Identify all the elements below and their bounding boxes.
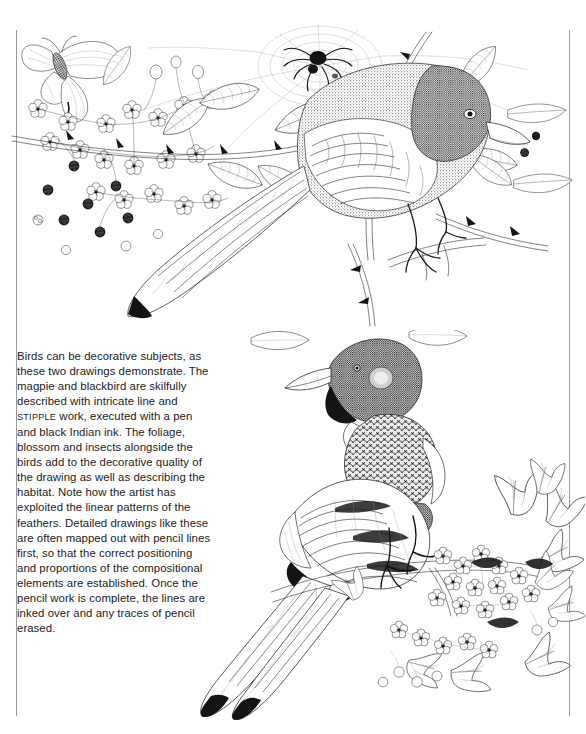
perch-branch — [388, 238, 486, 280]
flower-buds — [144, 56, 208, 110]
caption-text: Birds can be decorative subjects, as the… — [17, 349, 213, 636]
caption-smallcaps-stipple: STIPPLE — [17, 412, 56, 422]
hawthorn-leaves — [328, 446, 585, 705]
web-insects — [332, 74, 360, 95]
spider-web — [136, 24, 528, 148]
column-rule-right — [569, 30, 570, 716]
caption-part-1: Birds can be decorative subjects, as the… — [17, 350, 209, 407]
hawthorn-branch — [271, 560, 553, 616]
thorn-stems — [12, 32, 548, 326]
blossom-cluster-left — [29, 91, 228, 215]
book-page: Birds can be decorative subjects, as the… — [0, 0, 586, 734]
butterfly — [22, 36, 121, 124]
hawthorn-blossom — [390, 545, 540, 658]
beak-berries — [520, 132, 540, 157]
magpie — [201, 339, 445, 720]
bramble-leaves — [95, 41, 519, 204]
blackbird — [128, 63, 540, 318]
right-foliage — [508, 104, 572, 193]
hawthorn-berries — [378, 610, 557, 687]
caption-part-2: work, executed with a pen and black Indi… — [17, 410, 210, 634]
blackberries — [33, 136, 163, 255]
blackbird-illustration — [8, 14, 578, 344]
dark-leaf-accents — [471, 558, 553, 629]
top-twigs — [251, 330, 467, 350]
spider — [284, 48, 352, 91]
magpie-illustration — [185, 330, 585, 720]
